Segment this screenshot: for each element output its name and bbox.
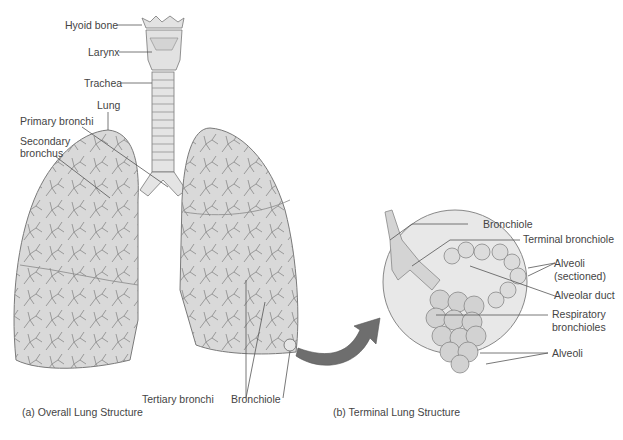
bronchiole-highlight: [284, 339, 296, 351]
hyoid-bone: [142, 16, 184, 28]
label-respiratory-bronchioles-line1: Respiratory: [552, 308, 606, 320]
label-lung: Lung: [97, 99, 120, 111]
label-alveoli-sectioned-line1: Alveoli: [554, 257, 585, 269]
label-bronchiole-b: Bronchiole: [483, 218, 533, 230]
caption-panel-a: (a) Overall Lung Structure: [22, 406, 143, 418]
right-lung: [180, 128, 298, 354]
label-bronchiole-a: Bronchiole: [231, 393, 281, 405]
label-larynx: Larynx: [88, 46, 120, 58]
label-alveolar-duct: Alveolar duct: [554, 289, 615, 301]
trachea: [140, 72, 186, 196]
label-alveoli: Alveoli: [552, 347, 583, 359]
label-tertiary-bronchi: Tertiary bronchi: [142, 393, 214, 405]
label-terminal-bronchiole: Terminal bronchiole: [523, 233, 614, 245]
label-secondary-bronchus-line2: bronchus: [20, 147, 63, 159]
terminal-structure-circle: [383, 210, 527, 373]
label-respiratory-bronchioles-line2: bronchioles: [552, 321, 606, 333]
caption-panel-b: (b) Terminal Lung Structure: [333, 406, 460, 418]
label-secondary-bronchus-line1: Secondary: [20, 135, 70, 147]
label-primary-bronchi: Primary bronchi: [20, 115, 94, 127]
alveoli-cluster: [426, 290, 486, 373]
label-hyoid-bone: Hyoid bone: [65, 19, 118, 31]
left-lung: [14, 130, 138, 368]
zoom-arrow-icon: [296, 318, 380, 365]
label-alveoli-sectioned-line2: (sectioned): [554, 270, 606, 282]
larynx: [146, 30, 182, 70]
label-trachea: Trachea: [84, 77, 122, 89]
